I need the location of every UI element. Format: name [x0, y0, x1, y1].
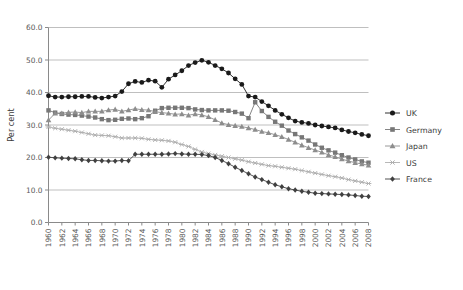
- data-point-marker: [266, 115, 270, 119]
- x-tick-label: 1974: [138, 228, 147, 247]
- x-tick-label: 1970: [111, 228, 120, 247]
- x-tick-label: 1962: [58, 229, 67, 248]
- y-tick-label: 10.0: [26, 186, 43, 195]
- data-point-marker: [333, 126, 338, 131]
- data-point-marker: [73, 94, 78, 99]
- data-point-marker: [313, 142, 317, 146]
- chart-container: 0.010.020.030.040.050.060.0 196019621964…: [0, 0, 463, 290]
- data-point-marker: [246, 94, 251, 99]
- y-axis-title: Per cent: [6, 107, 16, 141]
- data-point-marker: [133, 117, 137, 121]
- x-tick-label: 2008: [364, 228, 373, 247]
- x-tick-label: 2004: [338, 228, 347, 247]
- legend-label: France: [406, 175, 432, 184]
- y-axis-label: Per cent: [6, 107, 16, 141]
- x-tick-label: 1994: [271, 228, 280, 247]
- data-point-marker: [113, 118, 117, 122]
- data-point-marker: [160, 106, 164, 110]
- x-tick-label: 1990: [244, 228, 253, 247]
- data-point-marker: [300, 135, 304, 139]
- data-point-marker: [299, 120, 304, 125]
- x-tick-label: 1986: [218, 228, 227, 247]
- data-point-marker: [86, 94, 91, 99]
- data-point-marker: [59, 95, 64, 100]
- data-point-marker: [286, 128, 290, 132]
- data-point-marker: [99, 96, 104, 101]
- data-point-marker: [93, 95, 98, 100]
- data-point-marker: [193, 60, 198, 65]
- x-tick-label: 1996: [284, 228, 293, 247]
- data-point-marker: [260, 109, 264, 113]
- data-point-marker: [53, 95, 58, 100]
- data-point-marker: [240, 111, 244, 115]
- data-point-marker: [126, 81, 131, 86]
- data-point-marker: [200, 108, 204, 112]
- x-tick-label: 1988: [231, 228, 240, 247]
- data-point-marker: [233, 76, 238, 81]
- data-point-marker: [306, 138, 310, 142]
- data-point-marker: [233, 110, 237, 114]
- data-point-marker: [173, 73, 178, 78]
- data-point-marker: [166, 106, 170, 110]
- x-tick-label: 1972: [124, 229, 133, 248]
- data-point-marker: [159, 85, 164, 90]
- legend-label: Germany: [406, 126, 442, 135]
- data-point-marker: [273, 108, 278, 113]
- x-tick-label: 2002: [324, 229, 333, 248]
- x-tick-label: 1960: [44, 228, 53, 247]
- legend-label: Japan: [405, 142, 428, 151]
- y-tick-label: 20.0: [26, 153, 43, 162]
- data-point-marker: [280, 123, 284, 127]
- x-tick-label: 1968: [98, 228, 107, 247]
- data-point-marker: [199, 58, 204, 63]
- data-point-marker: [100, 117, 104, 121]
- data-point-marker: [113, 94, 118, 99]
- data-point-marker: [153, 79, 158, 84]
- data-point-marker: [106, 118, 110, 122]
- data-point-marker: [319, 124, 324, 129]
- data-point-marker: [93, 115, 97, 119]
- x-tick-label: 2000: [311, 228, 320, 247]
- y-tick-label: 30.0: [26, 121, 43, 130]
- x-tick-label: 1966: [84, 228, 93, 247]
- legend-label: US: [406, 159, 417, 168]
- data-point-marker: [286, 115, 291, 120]
- data-point-marker: [206, 60, 211, 65]
- data-point-marker: [390, 127, 395, 132]
- data-point-marker: [353, 130, 358, 135]
- y-tick-label: 40.0: [26, 88, 43, 97]
- data-point-marker: [279, 112, 284, 117]
- data-point-marker: [266, 103, 271, 108]
- data-point-marker: [293, 119, 298, 124]
- data-point-marker: [220, 108, 224, 112]
- data-point-marker: [166, 77, 171, 82]
- data-point-marker: [79, 94, 84, 99]
- data-point-marker: [213, 63, 218, 68]
- data-point-marker: [146, 78, 151, 83]
- x-tick-label: 2006: [351, 228, 360, 247]
- data-point-marker: [320, 146, 324, 150]
- data-point-marker: [326, 148, 330, 152]
- y-tick-label: 60.0: [26, 23, 43, 32]
- data-point-marker: [259, 99, 264, 104]
- data-point-marker: [126, 116, 130, 120]
- x-tick-label: 1980: [178, 228, 187, 247]
- data-point-marker: [173, 106, 177, 110]
- data-point-marker: [339, 127, 344, 132]
- data-point-marker: [46, 108, 50, 112]
- x-tick-label: 1982: [191, 229, 200, 248]
- data-point-marker: [366, 133, 371, 138]
- data-point-marker: [146, 114, 150, 118]
- data-point-marker: [140, 116, 144, 120]
- data-point-marker: [253, 100, 257, 104]
- data-point-marker: [253, 95, 258, 100]
- data-point-marker: [226, 109, 230, 113]
- data-point-marker: [86, 114, 90, 118]
- x-tick-label: 1976: [151, 228, 160, 247]
- data-point-marker: [293, 132, 297, 136]
- data-point-marker: [179, 68, 184, 73]
- line-chart: 0.010.020.030.040.050.060.0 196019621964…: [0, 0, 463, 290]
- data-point-marker: [313, 123, 318, 128]
- data-point-marker: [213, 108, 217, 112]
- x-tick-label: 1978: [164, 228, 173, 247]
